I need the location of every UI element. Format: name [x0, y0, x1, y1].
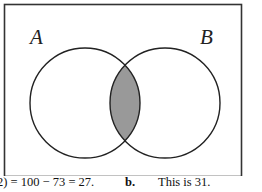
- venn-diagram: A B: [0, 0, 262, 176]
- caption-right-text: This is 31.: [158, 175, 210, 190]
- set-a-label: A: [28, 25, 43, 49]
- set-b-label: B: [200, 25, 213, 49]
- caption-left-text: 2) = 100 − 73 = 27.: [0, 175, 94, 190]
- caption-part-label: b.: [125, 175, 135, 190]
- caption: 2) = 100 − 73 = 27. b. This is 31.: [0, 175, 262, 192]
